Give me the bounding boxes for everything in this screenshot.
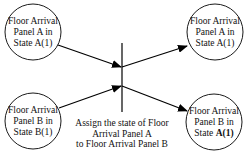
- label-line: Floor Arrival: [5, 105, 61, 116]
- caption-line: Arrival Panel A: [66, 129, 178, 140]
- label-line: Panel B in: [186, 117, 242, 128]
- place-label-b-left: Floor Arrival Panel B in State B(1): [5, 105, 61, 138]
- label-line: Floor Arrival: [187, 16, 243, 27]
- label-line: Panel A in: [5, 27, 61, 38]
- label-line: Panel A in: [187, 27, 243, 38]
- label-line: State A(1): [5, 38, 61, 49]
- place-label-b-right: Floor Arrival Panel B in State A(1): [186, 106, 242, 139]
- label-line: Panel B in: [5, 116, 61, 127]
- label-line: State B(1): [5, 127, 61, 138]
- place-label-a-right: Floor Arrival Panel A in State A(1): [187, 16, 243, 49]
- caption-line: Assign the state of Floor: [66, 118, 178, 129]
- label-line: Floor Arrival: [186, 106, 242, 117]
- arc-p1-to-transition: [58, 45, 121, 67]
- label-line: Floor Arrival: [5, 16, 61, 27]
- label-line: State A(1): [187, 38, 243, 49]
- arc-p3-to-transition: [59, 86, 121, 108]
- caption-line: to Floor Arrival Panel B: [66, 139, 178, 150]
- bold-state: A(1): [216, 128, 234, 138]
- transition-caption: Assign the state of Floor Arrival Panel …: [66, 118, 178, 150]
- place-label-a-left: Floor Arrival Panel A in State A(1): [5, 16, 61, 49]
- arc-transition-to-p4: [122, 86, 187, 111]
- arc-transition-to-p2: [122, 46, 187, 67]
- label-line: State A(1): [186, 128, 242, 139]
